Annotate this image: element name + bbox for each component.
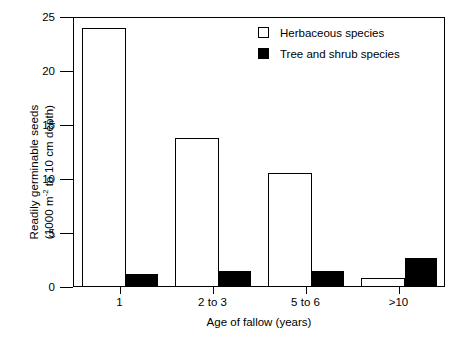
y-axis-tick-label: 15 xyxy=(15,119,55,131)
legend-label: Tree and shrub species xyxy=(280,48,400,60)
x-axis-tick-label: 1 xyxy=(116,296,122,308)
y-axis-tick xyxy=(60,233,73,234)
y-axis-tick xyxy=(60,17,73,18)
legend-swatch-filled xyxy=(258,48,269,59)
legend-swatch-open xyxy=(258,27,269,38)
y-axis-tick xyxy=(60,71,73,72)
bar xyxy=(361,278,405,287)
x-axis-tick xyxy=(213,287,214,294)
bar xyxy=(312,271,344,287)
bar xyxy=(405,258,437,287)
y-axis-tick xyxy=(60,179,73,180)
y-axis-tick-label: 0 xyxy=(15,281,55,293)
legend-item: Tree and shrub species xyxy=(258,43,400,64)
y-axis-tick-label: 5 xyxy=(15,227,55,239)
y-axis-tick xyxy=(60,125,73,126)
bar-chart-figure: Readily germinable seeds (1000 m-2 to 10… xyxy=(0,0,457,337)
bar xyxy=(126,274,158,287)
y-axis-tick-label: 20 xyxy=(15,65,55,77)
bar xyxy=(219,271,251,287)
legend: Herbaceous speciesTree and shrub species xyxy=(258,22,400,64)
x-axis-tick xyxy=(399,287,400,294)
y-axis-title-superscript: -2 xyxy=(41,189,50,196)
x-axis-tick xyxy=(306,287,307,294)
y-axis-tick-label: 25 xyxy=(15,11,55,23)
x-axis-tick-label: >10 xyxy=(389,296,409,308)
x-axis-tick-label: 2 to 3 xyxy=(198,296,227,308)
x-axis-tick-label: 5 to 6 xyxy=(291,296,320,308)
y-axis-title: Readily germinable seeds (1000 m-2 to 10… xyxy=(22,42,62,302)
legend-label: Herbaceous species xyxy=(280,27,384,39)
y-axis-tick-label: 10 xyxy=(15,173,55,185)
bar xyxy=(175,138,219,287)
x-axis-title: Age of fallow (years) xyxy=(73,316,445,328)
y-axis-tick xyxy=(60,287,73,288)
x-axis-tick xyxy=(120,287,121,294)
legend-item: Herbaceous species xyxy=(258,22,400,43)
bar xyxy=(268,173,312,287)
bar xyxy=(82,28,126,287)
